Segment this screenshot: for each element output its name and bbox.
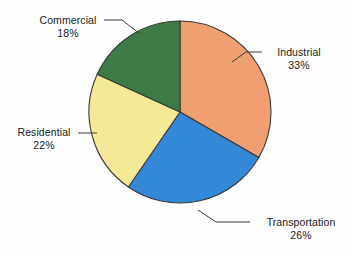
pie-label-industrial: Industrial 33% xyxy=(265,46,333,71)
pie-label-residential-percent: 22% xyxy=(8,139,80,152)
pie-label-commercial-percent: 18% xyxy=(30,27,106,40)
pie-label-commercial: Commercial 18% xyxy=(30,14,106,39)
pie-label-residential: Residential 22% xyxy=(8,126,80,151)
pie-chart-figure: Commercial 18% Industrial 33% Residentia… xyxy=(0,0,352,254)
pie-label-residential-name: Residential xyxy=(8,126,80,139)
pie-label-transportation: Transportation 26% xyxy=(253,216,349,241)
pie-label-commercial-name: Commercial xyxy=(30,14,106,27)
pie-label-industrial-percent: 33% xyxy=(265,59,333,72)
leader-line-commercial xyxy=(104,20,140,34)
leader-line-transportation xyxy=(198,210,250,222)
pie-label-transportation-percent: 26% xyxy=(253,229,349,242)
pie-label-industrial-name: Industrial xyxy=(265,46,333,59)
pie-label-transportation-name: Transportation xyxy=(253,216,349,229)
